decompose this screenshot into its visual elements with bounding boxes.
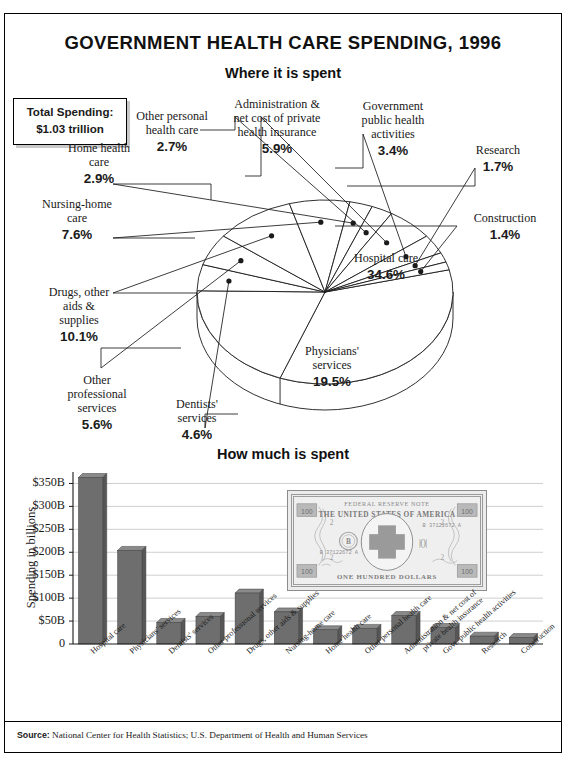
pie-callout-dentists-services: Dentists'services 4.6% xyxy=(160,398,234,442)
pie-callout-pct-3: 1.7% xyxy=(457,159,539,174)
pie-callout-pct-4: 1.4% xyxy=(459,227,551,242)
infographic-panel: GOVERNMENT HEALTH CARE SPENDING, 1996 Wh… xyxy=(4,13,562,753)
pie-callout-label-0: Other personalhealth care xyxy=(136,109,208,137)
pie-callout-label-11: Home healthcare xyxy=(68,141,130,169)
bill-corner-value-bl: 100 xyxy=(301,568,313,575)
pie-callout-home-health-care: Home healthcare 2.9% xyxy=(51,142,147,186)
pie-callout-drugs-other-aids: Drugs, otheraids &supplies 10.1% xyxy=(37,286,121,344)
pie-callout-label-7: Dentists'services xyxy=(176,397,218,425)
bill-denomination-left: 2 xyxy=(330,519,334,527)
pie-chart: Other personalhealth care 2.7% Administr… xyxy=(5,76,562,444)
pie-callout-pct-2: 3.4% xyxy=(343,143,443,158)
bill-corner-value-tl: 100 xyxy=(301,508,313,515)
pie-callout-pct-1: 5.9% xyxy=(221,141,333,156)
bill-serial-left: B 37122672 A xyxy=(320,550,359,556)
pie-callout-label-8: Otherprofessionalservices xyxy=(67,373,126,415)
pie-callout-label-6: Physicians'services xyxy=(305,344,359,372)
pie-callout-hospital-care: Hospital care 34.6% xyxy=(335,252,437,282)
pie-callout-pct-11: 2.9% xyxy=(51,171,147,186)
pie-callout-pct-8: 5.6% xyxy=(53,417,141,432)
bill-bottom-text: ONE HUNDRED DOLLARS xyxy=(337,573,437,580)
pie-callout-label-5: Hospital care xyxy=(354,251,418,265)
hundred-dollar-bill-illustration: 100 100 100 100 FEDERAL RESERVE NOTE xyxy=(287,490,487,591)
pie-callout-pct-7: 4.6% xyxy=(160,427,234,442)
page-title: GOVERNMENT HEALTH CARE SPENDING, 1996 xyxy=(5,32,561,54)
pie-callout-nursing-home-care: Nursing-homecare 7.6% xyxy=(27,198,127,242)
pie-callout-other-professional-services: Otherprofessionalservices 5.6% xyxy=(53,374,141,432)
bill-artwork: 100 100 100 100 FEDERAL RESERVE NOTE xyxy=(292,495,482,586)
pie-callout-construction: Construction 1.4% xyxy=(459,212,551,242)
source-note: Source: National Center for Health Stati… xyxy=(17,730,368,740)
footer-divider xyxy=(5,721,561,722)
pie-callout-govt-public-health: Governmentpublic healthactivities 3.4% xyxy=(343,100,443,158)
bill-watermark: |()| xyxy=(419,536,427,549)
pie-callout-pct-6: 19.5% xyxy=(289,374,375,389)
source-text: National Center for Health Statistics; U… xyxy=(52,730,368,740)
pie-callout-pct-9: 10.1% xyxy=(37,329,121,344)
bill-corner-value-br: 100 xyxy=(461,568,473,575)
pie-callout-label-1: Administration &net cost of privatehealt… xyxy=(234,97,321,139)
pie-callout-physicians-services: Physicians'services 19.5% xyxy=(289,345,375,389)
pie-callout-research: Research 1.7% xyxy=(457,144,539,174)
pie-callout-label-10: Nursing-homecare xyxy=(42,197,112,225)
bill-corner-value-tr: 100 xyxy=(461,508,473,515)
bill-serial-right: B 37122672 A xyxy=(423,523,462,529)
pie-callout-pct-10: 7.6% xyxy=(27,227,127,242)
source-label: Source: xyxy=(17,730,50,740)
bar-section-title: How much is spent xyxy=(5,446,561,462)
pie-callout-label-3: Research xyxy=(476,143,520,157)
bill-top-text: FEDERAL RESERVE NOTE xyxy=(344,501,429,507)
bar-chart: Spending in billions 0$50B$100B$150B$200… xyxy=(5,462,562,692)
pie-callout-administration: Administration &net cost of privatehealt… xyxy=(221,98,333,156)
pie-callout-label-9: Drugs, otheraids &supplies xyxy=(49,285,109,327)
bill-bank-letter: B xyxy=(346,537,351,546)
pie-callout-pct-5: 34.6% xyxy=(335,267,437,282)
bill-inner-frame: 100 100 100 100 FEDERAL RESERVE NOTE xyxy=(291,494,483,587)
pie-callout-label-2: Governmentpublic healthactivities xyxy=(362,99,425,141)
pie-callout-label-4: Construction xyxy=(474,211,536,225)
